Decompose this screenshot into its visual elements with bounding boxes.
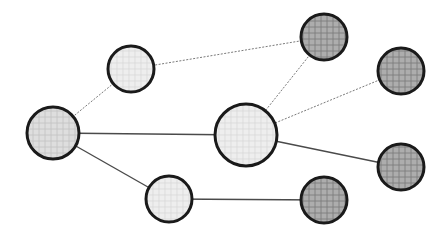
- edge-top-left-to-top-right: [131, 37, 324, 69]
- node-center: [215, 104, 277, 166]
- node-bottom-right: [301, 177, 347, 223]
- node-bottom-left: [146, 176, 192, 222]
- node-right-upper: [378, 48, 424, 94]
- node-right-lower: [378, 144, 424, 190]
- network-diagram: [0, 0, 447, 239]
- network-graph-svg: [0, 0, 447, 239]
- node-left: [27, 107, 79, 159]
- node-top-left: [108, 46, 154, 92]
- nodes-layer: [27, 14, 424, 223]
- node-top-right: [301, 14, 347, 60]
